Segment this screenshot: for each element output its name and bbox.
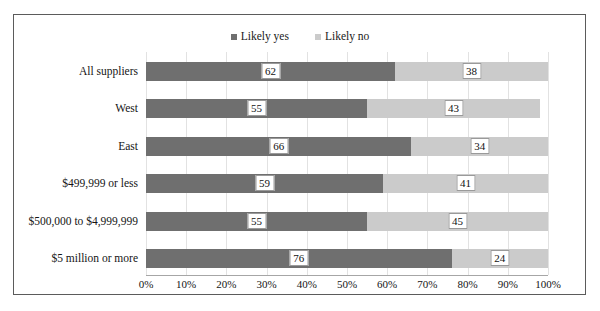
- plot-area: All suppliers6238West5543East6634$499,99…: [146, 52, 548, 275]
- gridline: [186, 52, 187, 275]
- gridline: [548, 52, 549, 275]
- bar-row: West5543: [146, 99, 548, 118]
- bar-row: East6634: [146, 137, 548, 156]
- x-tick-label: 70%: [417, 278, 437, 290]
- category-label: East: [0, 137, 138, 156]
- x-tick-label: 100%: [535, 278, 561, 290]
- x-tick-label: 20%: [216, 278, 236, 290]
- gridline: [307, 52, 308, 275]
- data-label: 55: [247, 213, 266, 229]
- category-label: All suppliers: [0, 62, 138, 81]
- x-axis-tick-labels: 0%10%20%30%40%50%60%70%80%90%100%: [146, 278, 548, 294]
- data-label: 76: [289, 250, 308, 266]
- bar-row: All suppliers6238: [146, 62, 548, 81]
- data-label: 41: [456, 175, 475, 191]
- gridline: [508, 52, 509, 275]
- gridline: [146, 52, 147, 275]
- x-tick-label: 0%: [139, 278, 154, 290]
- gridline: [468, 52, 469, 275]
- data-label: 66: [269, 138, 288, 154]
- x-tick-label: 90%: [498, 278, 518, 290]
- legend-swatch-icon: [231, 34, 237, 40]
- category-label: West: [0, 99, 138, 118]
- legend-swatch-icon: [315, 34, 321, 40]
- legend-entry[interactable]: Likely yes: [231, 31, 289, 43]
- data-label: 45: [448, 213, 467, 229]
- gridline: [226, 52, 227, 275]
- chart-figure: Likely yesLikely no All suppliers6238Wes…: [0, 0, 600, 311]
- data-label: 43: [444, 100, 463, 116]
- x-axis-line: [146, 275, 548, 276]
- category-label: $499,999 or less: [0, 174, 138, 193]
- category-label: $5 million or more: [0, 249, 138, 268]
- x-tick-label: 60%: [377, 278, 397, 290]
- x-tick-label: 40%: [297, 278, 317, 290]
- x-tick-label: 10%: [176, 278, 196, 290]
- x-tick-label: 80%: [458, 278, 478, 290]
- data-label: 38: [462, 63, 481, 79]
- gridline: [387, 52, 388, 275]
- chart-legend: Likely yesLikely no: [0, 29, 600, 45]
- legend-entry[interactable]: Likely no: [315, 31, 369, 43]
- data-label: 55: [247, 100, 266, 116]
- category-label: $500,000 to $4,999,999: [0, 212, 138, 231]
- data-label: 62: [261, 63, 280, 79]
- data-label: 34: [470, 138, 489, 154]
- gridlines: [146, 52, 548, 275]
- legend-label: Likely yes: [241, 31, 289, 43]
- x-tick-label: 50%: [337, 278, 357, 290]
- gridline: [347, 52, 348, 275]
- bar-row: $499,999 or less5941: [146, 174, 548, 193]
- legend-label: Likely no: [325, 31, 369, 43]
- data-label: 24: [490, 250, 509, 266]
- data-label: 59: [255, 175, 274, 191]
- bar-row: $500,000 to $4,999,9995545: [146, 212, 548, 231]
- gridline: [427, 52, 428, 275]
- x-tick-label: 30%: [257, 278, 277, 290]
- gridline: [267, 52, 268, 275]
- bar-row: $5 million or more7624: [146, 249, 548, 268]
